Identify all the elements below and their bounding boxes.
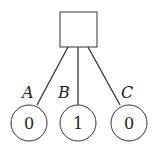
leaf-value-b: 1 xyxy=(73,114,83,133)
leaf-value-a: 0 xyxy=(24,114,34,133)
root-node xyxy=(60,12,97,47)
edge-label-a: A xyxy=(20,83,34,102)
edge-label-b: B xyxy=(57,83,70,102)
edge-label-c: C xyxy=(121,83,133,102)
tree-diagram: A B C 0 1 0 xyxy=(0,0,158,151)
edge-c xyxy=(88,47,120,105)
leaf-value-c: 0 xyxy=(124,114,134,133)
